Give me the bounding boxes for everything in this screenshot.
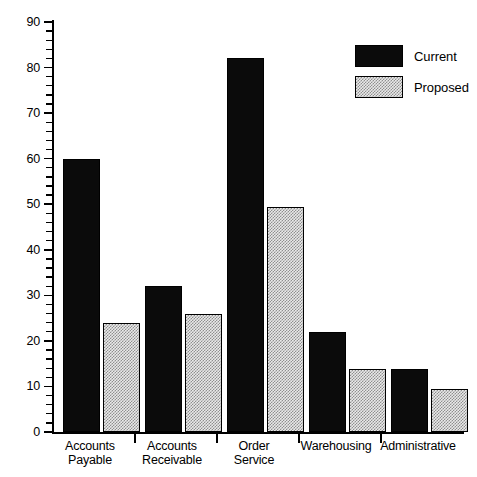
- bar-proposed-warehousing: [349, 369, 386, 432]
- bar-chart: 0102030405060708090 AccountsPayableAccou…: [0, 0, 477, 477]
- category-label-accounts-receivable: AccountsReceivable: [131, 440, 213, 467]
- bar-current-order-service: [227, 58, 264, 432]
- legend-item-proposed: Proposed: [355, 76, 469, 98]
- category-label-line: Administrative: [377, 440, 459, 454]
- bar-proposed-administrative: [431, 389, 468, 432]
- bar-current-administrative: [391, 369, 428, 432]
- legend-swatch-proposed-icon: [355, 76, 403, 98]
- category-label-line: Service: [213, 454, 295, 468]
- category-label-line: Warehousing: [295, 440, 377, 454]
- legend-item-current: Current: [355, 45, 469, 67]
- category-label-line: Receivable: [131, 454, 213, 468]
- category-label-line: Accounts: [131, 440, 213, 454]
- category-label-administrative: Administrative: [377, 440, 459, 454]
- category-label-warehousing: Warehousing: [295, 440, 377, 454]
- category-label-line: Payable: [49, 454, 131, 468]
- bar-current-warehousing: [309, 332, 346, 432]
- bar-current-accounts-payable: [63, 159, 100, 432]
- bar-proposed-order-service: [267, 207, 304, 433]
- legend-label-current: Current: [414, 50, 457, 63]
- bar-current-accounts-receivable: [145, 286, 182, 432]
- category-label-accounts-payable: AccountsPayable: [49, 440, 131, 467]
- bar-proposed-accounts-receivable: [185, 314, 222, 432]
- category-label-order-service: OrderService: [213, 440, 295, 467]
- category-label-line: Accounts: [49, 440, 131, 454]
- legend: Current Proposed: [355, 45, 469, 107]
- legend-label-proposed: Proposed: [414, 81, 469, 94]
- legend-swatch-current-icon: [355, 45, 403, 67]
- bar-proposed-accounts-payable: [103, 323, 140, 432]
- category-label-line: Order: [213, 440, 295, 454]
